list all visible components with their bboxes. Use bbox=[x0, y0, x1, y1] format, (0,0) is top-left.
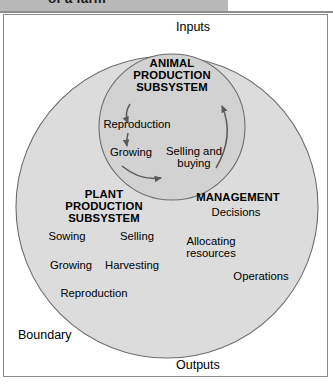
management-title-line1: MANAGEMENT bbox=[190, 191, 286, 203]
animal-node-reproduction: Reproduction bbox=[100, 118, 174, 130]
management-allocating-line1: Allocating bbox=[180, 235, 242, 247]
management-node-operations: Operations bbox=[229, 270, 293, 282]
plant-node-growing: Growing bbox=[44, 259, 98, 271]
inputs-label: Inputs bbox=[176, 21, 210, 35]
animal-selling-line1: Selling and bbox=[163, 145, 225, 157]
outputs-label: Outputs bbox=[176, 359, 220, 373]
management-subsystem-title: MANAGEMENT bbox=[190, 191, 286, 203]
plant-node-selling: Selling bbox=[115, 230, 159, 242]
plant-node-sowing: Sowing bbox=[41, 230, 93, 242]
plant-subsystem-title: PLANT PRODUCTION SUBSYSTEM bbox=[58, 188, 150, 225]
animal-title-line1: ANIMAL bbox=[122, 57, 222, 69]
animal-selling-line2: buying bbox=[163, 157, 225, 169]
plant-title-line3: SUBSYSTEM bbox=[58, 212, 150, 224]
animal-subsystem-title: ANIMAL PRODUCTION SUBSYSTEM bbox=[122, 57, 222, 94]
animal-title-line2: PRODUCTION bbox=[122, 69, 222, 81]
animal-node-growing: Growing bbox=[104, 146, 158, 158]
management-allocating-line2: resources bbox=[180, 247, 242, 259]
plant-title-line1: PLANT bbox=[58, 188, 150, 200]
plant-node-harvesting: Harvesting bbox=[101, 259, 163, 271]
management-node-decisions: Decisions bbox=[207, 206, 265, 218]
animal-title-line3: SUBSYSTEM bbox=[122, 81, 222, 93]
plant-title-line2: PRODUCTION bbox=[58, 200, 150, 212]
animal-node-selling-and-buying: Selling and buying bbox=[163, 145, 225, 169]
boundary-label: Boundary bbox=[18, 329, 72, 343]
diagram-page: of a farm bbox=[0, 0, 333, 389]
management-node-allocating-resources: Allocating resources bbox=[180, 235, 242, 259]
plant-node-reproduction: Reproduction bbox=[57, 287, 131, 299]
